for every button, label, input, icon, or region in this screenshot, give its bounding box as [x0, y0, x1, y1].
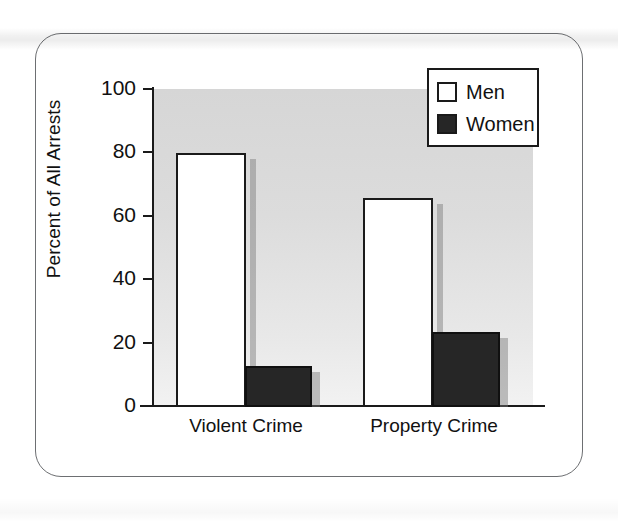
- y-tick-label-0: 0: [80, 394, 136, 415]
- bar-men-property-crime: [363, 198, 433, 407]
- y-tick-label-40: 40: [80, 267, 136, 288]
- y-tick-80: [143, 151, 153, 153]
- y-tick-100: [143, 88, 153, 90]
- white-square-swatch-icon: [437, 82, 457, 102]
- bar-women-violent-crime: [245, 366, 312, 407]
- y-tick-60: [143, 215, 153, 217]
- y-tick-20: [143, 342, 153, 344]
- bar-chart: 100 80 60 40 20 0 Percent of All Arrests…: [0, 0, 618, 522]
- bar-shadow-women-property: [500, 338, 508, 407]
- y-tick-label-80: 80: [80, 140, 136, 161]
- y-tick-label-60: 60: [80, 204, 136, 225]
- y-tick-40: [143, 278, 153, 280]
- legend-item-men: Men: [437, 76, 537, 108]
- bar-women-property-crime: [432, 332, 500, 407]
- legend-item-women: Women: [437, 108, 537, 140]
- bar-shadow-women-violent: [312, 372, 320, 407]
- bar-men-violent-crime: [176, 153, 246, 407]
- y-tick-label-20: 20: [80, 331, 136, 352]
- y-tick-0: [143, 405, 153, 407]
- black-square-swatch-icon: [437, 114, 457, 134]
- y-tick-label-100: 100: [80, 77, 136, 98]
- y-axis-line: [152, 87, 154, 407]
- chart-legend: Men Women: [427, 68, 539, 147]
- legend-label-women: Women: [466, 114, 535, 134]
- x-axis-label-property-crime: Property Crime: [352, 415, 516, 437]
- y-axis-title: Percent of All Arrests: [43, 99, 65, 279]
- legend-label-men: Men: [466, 82, 505, 102]
- x-axis-label-violent-crime: Violent Crime: [166, 415, 326, 437]
